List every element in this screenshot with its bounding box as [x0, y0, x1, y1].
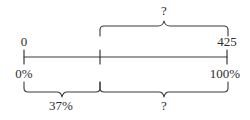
top-brace [100, 21, 228, 36]
bottom-brace-left [24, 82, 100, 97]
bottom-left-brace-label: 37% [49, 99, 73, 112]
number-line-diagram [0, 0, 250, 120]
top-brace-label: ? [161, 4, 167, 17]
value-label-right: 425 [217, 35, 237, 48]
diagram-canvas: ? 0 425 0% 100% 37% ? [0, 0, 250, 120]
percent-label-left: 0% [15, 67, 32, 80]
bottom-brace-right [100, 82, 228, 97]
value-label-left: 0 [21, 35, 28, 48]
percent-label-right: 100% [210, 67, 240, 80]
bottom-right-brace-label: ? [161, 99, 167, 112]
